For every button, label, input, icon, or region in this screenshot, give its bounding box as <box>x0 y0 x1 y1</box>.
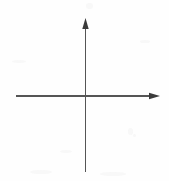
figure-canvas: Blank Cartesian coordinate axes <box>0 0 169 181</box>
coordinate-axes-figure <box>0 0 169 181</box>
